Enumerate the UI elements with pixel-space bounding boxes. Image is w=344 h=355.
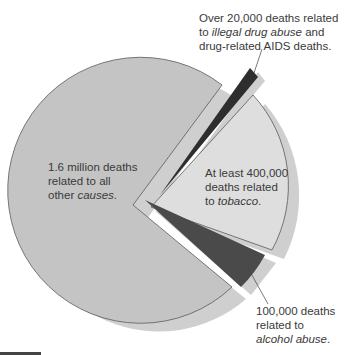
label-alcohol-line2: related to — [256, 318, 335, 332]
label-other-line3: other causes. — [48, 188, 138, 202]
label-tobacco: At least 400,000 deaths related to tobac… — [205, 166, 288, 208]
label-other-line1: 1.6 million deaths — [48, 160, 138, 174]
label-drugs-line2: to illegal drug abuse and — [199, 25, 338, 39]
label-drugs-line3: drug-related AIDS deaths. — [199, 39, 338, 53]
label-other-causes: 1.6 million deaths related to all other … — [48, 160, 138, 202]
label-alcohol-line3: alcohol abuse. — [256, 332, 335, 346]
label-drugs-line1: Over 20,000 deaths related — [199, 11, 338, 25]
label-tobacco-line3: to tobacco. — [205, 194, 288, 208]
label-alcohol-line1: 100,000 deaths — [256, 304, 335, 318]
label-tobacco-line2: deaths related — [205, 180, 288, 194]
label-alcohol: 100,000 deaths related to alcohol abuse. — [256, 304, 335, 346]
label-tobacco-line1: At least 400,000 — [205, 166, 288, 180]
label-drugs: Over 20,000 deaths related to illegal dr… — [199, 11, 338, 53]
label-other-line2: related to all — [48, 174, 138, 188]
